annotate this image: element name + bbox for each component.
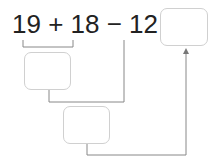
bracket-19-18 [23, 40, 73, 47]
connector-step2-to-result [87, 52, 186, 155]
connector-lines [0, 0, 219, 165]
connector-step1-to-step2 [49, 40, 124, 102]
arrow-up-icon [183, 48, 189, 54]
